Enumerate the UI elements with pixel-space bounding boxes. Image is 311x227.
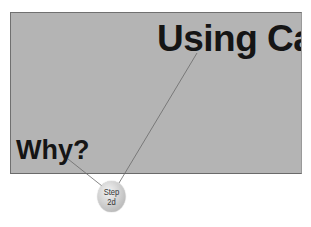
leader-line-title bbox=[119, 53, 197, 183]
step-label: Step bbox=[104, 187, 120, 197]
step-number: 2d bbox=[107, 197, 116, 207]
step-callout-badge: Step 2d bbox=[98, 181, 126, 212]
callout-leader-lines bbox=[0, 0, 311, 227]
leader-line-subtitle bbox=[68, 159, 102, 186]
